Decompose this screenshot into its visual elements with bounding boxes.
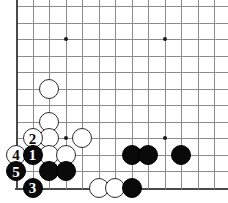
grid-line-vertical [165, 0, 166, 189]
black-stone-d11 [56, 161, 76, 181]
grid-line-vertical [115, 0, 116, 189]
black-stone-h12 [122, 178, 142, 198]
star-point-upper-left [64, 37, 68, 41]
grid-line-vertical [198, 0, 199, 189]
black-stone-i10 [138, 145, 158, 165]
grid-line-horizontal [16, 72, 228, 73]
white-stone-e9 [72, 128, 92, 148]
grid-line-horizontal [16, 56, 228, 57]
star-point-lower-left [64, 136, 68, 140]
black-stone-k10 [171, 145, 191, 165]
go-board: 24153 [0, 0, 228, 203]
grid-line-horizontal [16, 6, 228, 7]
black-move-3 [23, 178, 43, 198]
grid-line-horizontal [16, 23, 228, 24]
black-move-5 [6, 161, 26, 181]
grid-line-vertical [99, 0, 100, 189]
grid-line-horizontal [16, 105, 228, 106]
grid-line-horizontal [16, 39, 228, 40]
grid-line-vertical [82, 0, 83, 189]
star-point-upper-right [163, 37, 167, 41]
star-point-lower-right [163, 136, 167, 140]
grid-line-vertical [214, 0, 215, 189]
black-move-1 [23, 145, 43, 165]
white-stone-c6 [39, 79, 59, 99]
